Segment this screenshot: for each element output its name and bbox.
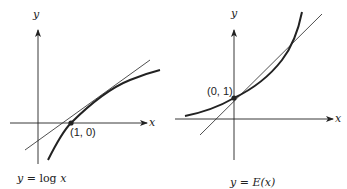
exp-point-label: (0, 1)	[207, 86, 233, 97]
log-caption-eq: =	[23, 172, 39, 185]
log-caption: y = log x	[17, 173, 66, 184]
exp-caption-arg: (x)	[260, 176, 275, 189]
log-caption-arg: x	[60, 172, 66, 185]
log-y-axis-label: y	[33, 9, 39, 20]
log-graph	[10, 30, 160, 164]
log-curve	[48, 70, 160, 160]
log-point-marker	[68, 120, 73, 125]
log-point-label: (1, 0)	[70, 127, 96, 138]
exp-tangent-line	[200, 14, 322, 135]
exp-graph	[175, 12, 333, 160]
log-x-axis-label: x	[149, 117, 155, 128]
exp-x-axis-label: x	[335, 113, 341, 124]
exp-y-axis-label: y	[231, 8, 237, 19]
diagram-canvas	[0, 0, 347, 189]
exp-caption-eq: =	[236, 176, 252, 189]
log-caption-fn: log	[39, 172, 60, 185]
exp-curve	[185, 12, 302, 116]
exp-caption: y = E(x)	[230, 177, 275, 188]
